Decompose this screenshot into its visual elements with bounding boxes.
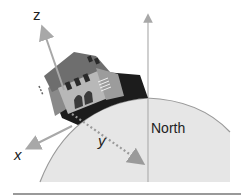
z-axis-label: z: [33, 6, 41, 23]
axis-origin-tick: [39, 86, 43, 95]
earth-coordinate-diagram: z x y North: [0, 0, 241, 196]
x-axis-label: x: [13, 146, 22, 163]
north-label: North: [151, 120, 185, 136]
